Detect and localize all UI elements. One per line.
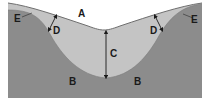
label-d-left: D	[53, 25, 60, 36]
label-e-right: E	[191, 14, 198, 25]
label-a: A	[78, 8, 85, 19]
valley-cross-section-diagram: A B B C D D E E	[0, 0, 210, 101]
label-e-left: E	[14, 13, 21, 24]
bottom-margin	[0, 98, 210, 101]
label-c: C	[110, 48, 117, 59]
label-b-left: B	[69, 76, 76, 87]
label-d-right: D	[150, 25, 157, 36]
label-b-right: B	[134, 76, 141, 87]
